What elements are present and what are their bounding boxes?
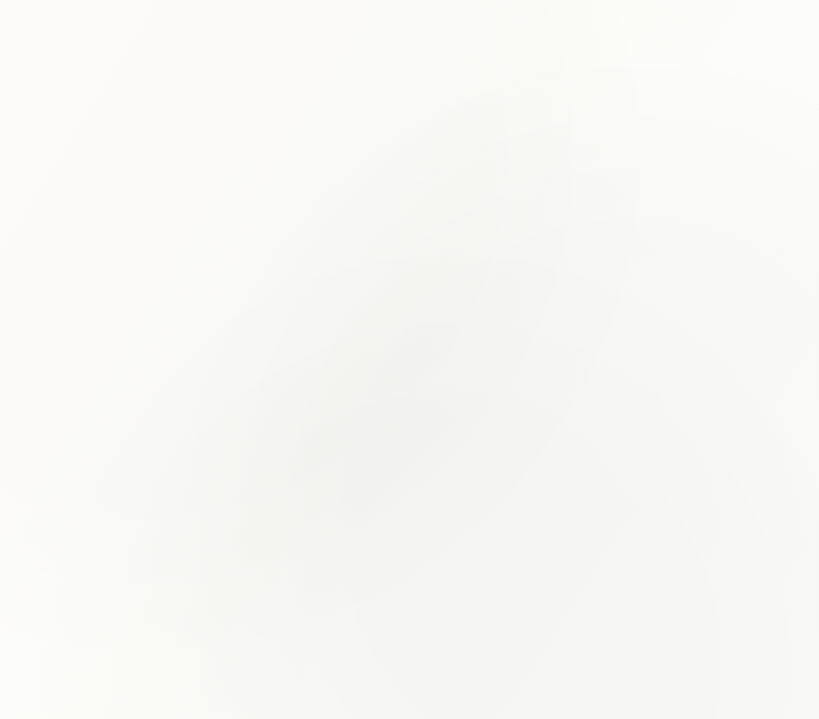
y-tick-20	[56, 358, 65, 360]
y-tick-label-40: 40	[30, 147, 53, 173]
y-tick-label-0: 0	[42, 547, 54, 573]
bar-value-label: 22	[512, 308, 535, 334]
gridline-30	[65, 259, 787, 260]
bar[interactable]	[442, 340, 605, 560]
y-tick-right-10	[787, 458, 796, 460]
y-tick-50	[56, 58, 65, 60]
y-tick-10	[56, 458, 65, 460]
y-tick-label-50: 50	[30, 47, 53, 73]
y-tick-right-40	[787, 158, 796, 160]
y-tick-right-20	[787, 358, 796, 360]
y-tick-label-20: 20	[30, 347, 53, 373]
x-axis-label: Most	[533, 529, 559, 576]
bar[interactable]	[260, 150, 416, 560]
bar[interactable]	[77, 330, 237, 560]
bar-value-label: 23	[146, 298, 169, 324]
y-tick-40	[56, 158, 65, 160]
bar[interactable]	[624, 420, 785, 560]
bar-value-label: 14	[693, 388, 716, 414]
y-tick-30	[56, 258, 65, 260]
x-axis-label: Very Little	[166, 477, 192, 576]
gridline-40	[65, 159, 787, 160]
x-axis-label: Some	[347, 524, 373, 576]
y-tick-0	[56, 558, 65, 560]
y-tick-right-30	[787, 258, 796, 260]
y-tick-label-10: 10	[30, 447, 53, 473]
bar-value-label: 41	[327, 118, 350, 144]
x-axis-label: All	[714, 547, 740, 576]
y-tick-label-30: 30	[30, 247, 53, 273]
chart-page: Percentage 0102030405023412214 Very Litt…	[0, 0, 819, 719]
